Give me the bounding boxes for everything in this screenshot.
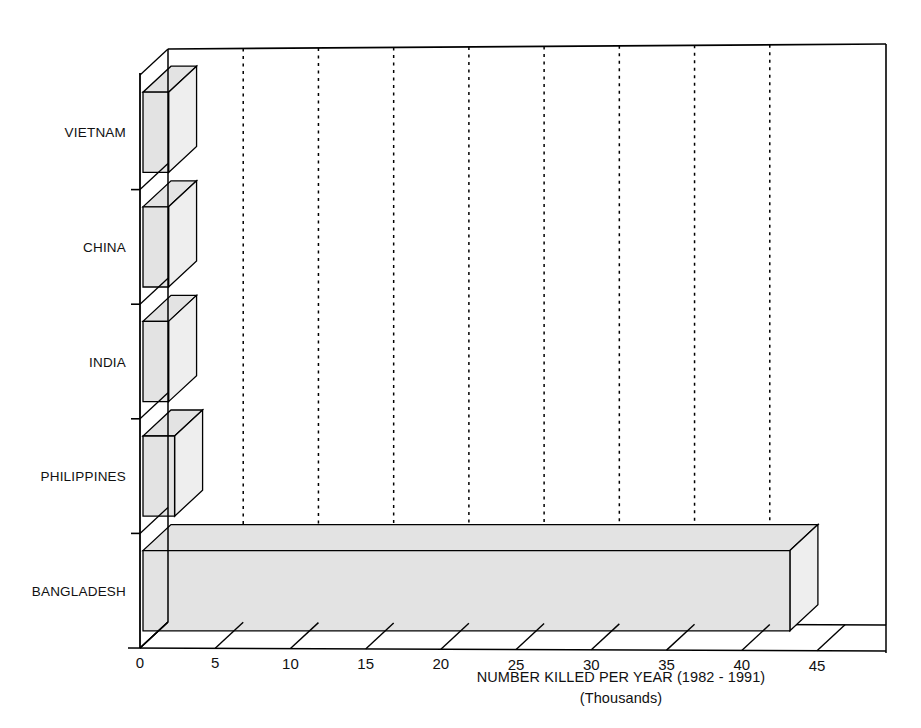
bar-chart-graphic (0, 0, 921, 728)
bar-bangladesh (143, 525, 818, 631)
back-wall-top-edge (168, 44, 886, 49)
bar-india (143, 295, 197, 401)
bar-philippines (143, 410, 203, 516)
x-axis-line (128, 648, 886, 651)
category-label-china: CHINA (0, 239, 126, 254)
bar-top-face (143, 525, 818, 551)
bar-front-face (143, 92, 169, 172)
category-label-philippines: PHILIPPINES (0, 469, 126, 484)
bar-china (143, 181, 197, 287)
category-label-vietnam: VIETNAM (0, 125, 126, 140)
bar-front-face (143, 207, 169, 287)
category-label-india: INDIA (0, 354, 126, 369)
bar-front-face (143, 321, 169, 401)
category-label-bangladesh: BANGLADESH (0, 583, 126, 598)
x-axis-subtitle: (Thousands) (580, 690, 663, 706)
bar-vietnam (143, 66, 197, 172)
x-tick-label-5: 5 (211, 654, 219, 671)
bar-front-face (143, 436, 175, 516)
bar-series (143, 66, 818, 631)
x-tick-label-15: 15 (357, 655, 374, 672)
x-tick-label-10: 10 (282, 655, 299, 672)
bar-front-face (143, 551, 790, 631)
x-axis-title: NUMBER KILLED PER YEAR (1982 - 1991) (477, 669, 766, 685)
x-tick-label-20: 20 (433, 655, 450, 672)
x-tick-riser-45 (817, 625, 845, 651)
x-tick-label-0: 0 (136, 654, 144, 671)
chart-container: VIETNAMCHINAINDIAPHILIPPINESBANGLADESH 0… (0, 0, 921, 728)
left-wall-rib-0 (140, 49, 168, 75)
x-tick-label-45: 45 (809, 657, 826, 674)
